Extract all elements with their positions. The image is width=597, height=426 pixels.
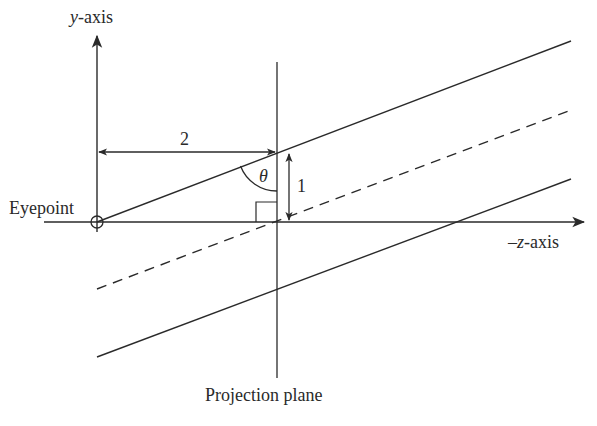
y-axis-label: y-axis <box>68 7 113 27</box>
theta-label: θ <box>259 166 268 186</box>
distance-value-label: 2 <box>180 129 189 149</box>
projection-plane-label: Projection plane <box>205 385 322 405</box>
z-axis-label: –z-axis <box>507 232 559 252</box>
lower-view-ray <box>97 179 571 357</box>
center-ray-dashed <box>97 110 571 289</box>
right-angle-marker <box>256 202 277 222</box>
projection-diagram: y-axis –z-axis Eyepoint Projection plane… <box>0 0 597 426</box>
upper-view-ray <box>97 41 571 222</box>
half-height-value-label: 1 <box>297 176 306 196</box>
eyepoint-label: Eyepoint <box>9 198 74 218</box>
